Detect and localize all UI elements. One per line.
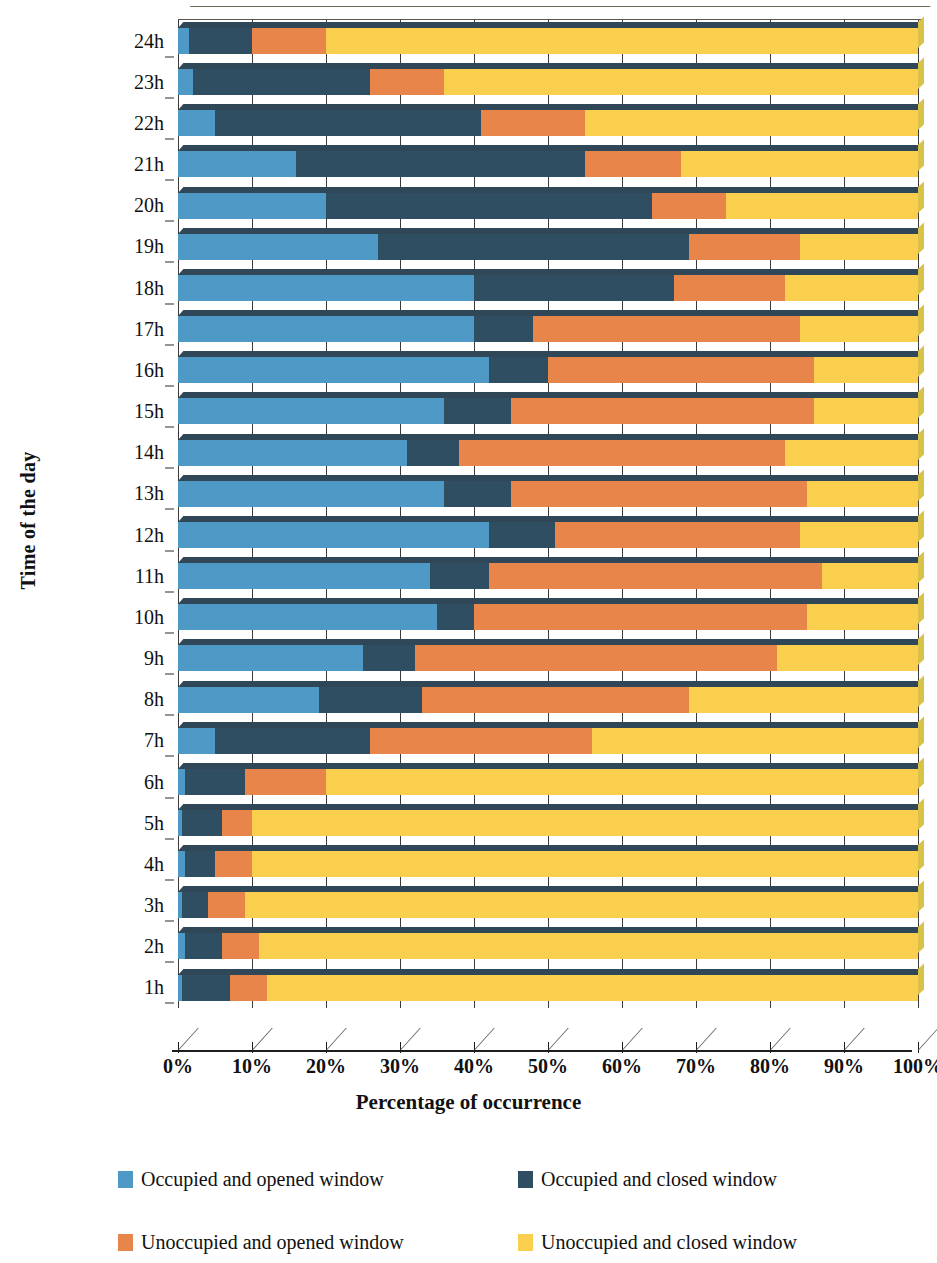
- bar-row: [178, 349, 924, 390]
- bar-row: [178, 432, 924, 473]
- bar-segment-4: [814, 357, 918, 383]
- legend-item[interactable]: Occupied and opened window: [118, 1168, 518, 1191]
- bar-segment-2: [215, 728, 370, 754]
- y-tick-label-15h: 15h: [134, 400, 164, 423]
- stacked-bar-17h: [178, 316, 918, 342]
- stacked-bar-18h: [178, 275, 918, 301]
- stacked-bar-8h: [178, 687, 918, 713]
- bar-segment-1: [178, 193, 326, 219]
- bar-segment-2: [437, 604, 474, 630]
- y-tick-mark: [165, 180, 174, 181]
- bar-segment-1: [178, 316, 474, 342]
- bar-row: [178, 843, 924, 884]
- bar-segment-2: [407, 440, 459, 466]
- y-tick-mark: [165, 303, 174, 304]
- stacked-bar-14h: [178, 440, 918, 466]
- y-tick-mark: [165, 509, 174, 510]
- bar-row: [178, 555, 924, 596]
- bar-segment-1: [178, 933, 185, 959]
- bar-segment-3: [533, 316, 799, 342]
- legend-label: Unoccupied and opened window: [141, 1231, 404, 1254]
- bar-segment-4: [681, 151, 918, 177]
- bar-row: [178, 185, 924, 226]
- bar-segment-4: [800, 522, 918, 548]
- bar-segment-3: [548, 357, 814, 383]
- stacked-bar-22h: [178, 110, 918, 136]
- y-tick-mark: [165, 962, 174, 963]
- y-axis-title: Time of the day: [8, 0, 48, 1040]
- x-tick-label-70pct: 70%: [676, 1055, 716, 1078]
- y-tick-mark: [165, 221, 174, 222]
- bar-segment-1: [178, 69, 193, 95]
- legend-item[interactable]: Unoccupied and opened window: [118, 1231, 518, 1254]
- x-tick-connector: [178, 1028, 199, 1050]
- bar-segment-3: [511, 398, 814, 424]
- bar-segment-2: [489, 522, 556, 548]
- bar-segment-4: [252, 851, 918, 877]
- bar-segment-4: [807, 481, 918, 507]
- x-axis: [172, 1028, 932, 1058]
- y-tick-label-7h: 7h: [144, 729, 164, 752]
- bar-segment-4: [259, 933, 918, 959]
- bar-segment-2: [185, 769, 244, 795]
- y-tick-mark: [165, 632, 174, 633]
- bar-segment-3: [652, 193, 726, 219]
- x-tick-connector: [474, 1028, 495, 1050]
- y-tick-mark: [165, 591, 174, 592]
- stacked-bar-11h: [178, 563, 918, 589]
- bar-row: [178, 679, 924, 720]
- stacked-bar-16h: [178, 357, 918, 383]
- stacked-bar-13h: [178, 481, 918, 507]
- stacked-bar-9h: [178, 645, 918, 671]
- y-tick-label-6h: 6h: [144, 770, 164, 793]
- bar-row: [178, 802, 924, 843]
- x-tick-connector: [252, 1028, 273, 1050]
- y-tick-mark: [165, 262, 174, 263]
- stacked-bar-5h: [178, 810, 918, 836]
- y-tick-mark: [165, 921, 174, 922]
- y-tick-mark: [165, 1003, 174, 1004]
- bar-segment-1: [178, 851, 185, 877]
- bar-segment-1: [178, 645, 363, 671]
- bar-segment-4: [252, 810, 918, 836]
- legend-label: Occupied and opened window: [141, 1168, 384, 1191]
- x-tick-label-10pct: 10%: [232, 1055, 272, 1078]
- bar-segment-3: [230, 975, 267, 1001]
- bar-row: [178, 61, 924, 102]
- stacked-bar-12h: [178, 522, 918, 548]
- bar-segment-3: [474, 604, 807, 630]
- bar-segment-4: [785, 440, 918, 466]
- bar-segment-1: [178, 769, 185, 795]
- y-tick-label-12h: 12h: [134, 523, 164, 546]
- x-tick-label-0pct: 0%: [163, 1055, 193, 1078]
- x-tick-label-60pct: 60%: [602, 1055, 642, 1078]
- bar-segment-4: [726, 193, 918, 219]
- bar-segment-2: [193, 69, 371, 95]
- bar-segment-1: [178, 481, 444, 507]
- x-axis-line: [172, 1050, 912, 1052]
- bar-segment-2: [444, 481, 511, 507]
- y-tick-label-11h: 11h: [135, 564, 164, 587]
- bar-row: [178, 596, 924, 637]
- y-tick-mark: [165, 427, 174, 428]
- x-tick-label-50pct: 50%: [528, 1055, 568, 1078]
- bar-segment-2: [430, 563, 489, 589]
- bar-segment-3: [481, 110, 585, 136]
- bar-segment-4: [777, 645, 918, 671]
- y-tick-label-23h: 23h: [134, 70, 164, 93]
- bar-segment-4: [807, 604, 918, 630]
- bar-segment-3: [585, 151, 681, 177]
- legend-item[interactable]: Occupied and closed window: [518, 1168, 918, 1191]
- y-tick-label-2h: 2h: [144, 935, 164, 958]
- bar-segment-1: [178, 728, 215, 754]
- y-tick-label-22h: 22h: [134, 111, 164, 134]
- plot-area: [178, 6, 924, 1028]
- bar-segment-3: [415, 645, 778, 671]
- y-tick-mark: [165, 879, 174, 880]
- legend-item[interactable]: Unoccupied and closed window: [518, 1231, 918, 1254]
- bar-segment-4: [800, 234, 918, 260]
- bar-segment-4: [245, 892, 918, 918]
- stacked-bar-20h: [178, 193, 918, 219]
- bar-row: [178, 390, 924, 431]
- bar-segment-3: [555, 522, 799, 548]
